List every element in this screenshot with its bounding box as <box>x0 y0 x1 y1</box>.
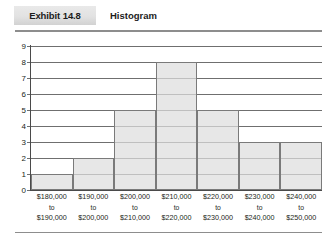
exhibit-number-tab: Exhibit 14.8 <box>14 6 96 25</box>
bin-lower-bound: $220,000 <box>197 192 239 203</box>
exhibit-number-label: Exhibit 14.8 <box>29 10 81 21</box>
x-axis-labels: $180,000to$190,000$190,000to$200,000$200… <box>31 192 322 234</box>
bin-upper-bound: $240,000 <box>239 213 281 224</box>
y-axis-tick-label: 5 <box>0 106 26 115</box>
header-divider <box>15 30 322 32</box>
histogram-bar <box>156 62 198 190</box>
bin-lower-bound: $180,000 <box>31 192 73 203</box>
plot-area <box>31 46 322 190</box>
bin-upper-bound: $230,000 <box>197 213 239 224</box>
bin-upper-bound: $190,000 <box>31 213 73 224</box>
bin-range-connector: to <box>197 203 239 214</box>
y-axis-tick-label: 3 <box>0 138 26 147</box>
y-axis-tick-label: 2 <box>0 154 26 163</box>
y-axis-tick-label: 4 <box>0 122 26 131</box>
bin-upper-bound: $250,000 <box>280 213 322 224</box>
bin-range-connector: to <box>280 203 322 214</box>
x-axis-bin-label: $240,000to$250,000 <box>280 192 322 224</box>
histogram-chart: 0123456789 $180,000to$190,000$190,000to$… <box>0 33 336 239</box>
histogram-bar <box>239 142 281 190</box>
y-axis-tick-label: 9 <box>0 42 26 51</box>
x-axis-bin-label: $210,000to$220,000 <box>156 192 198 224</box>
bin-upper-bound: $200,000 <box>73 213 115 224</box>
histogram-bar <box>73 158 115 190</box>
exhibit-header: Exhibit 14.8 Histogram <box>0 0 336 33</box>
x-axis-bin-label: $220,000to$230,000 <box>197 192 239 224</box>
histogram-bar <box>114 110 156 190</box>
bin-upper-bound: $220,000 <box>156 213 198 224</box>
exhibit-title: Histogram <box>110 6 157 25</box>
y-axis-tick-label: 0 <box>0 186 26 195</box>
bin-lower-bound: $200,000 <box>114 192 156 203</box>
y-axis-line <box>30 45 31 191</box>
bin-range-connector: to <box>73 203 115 214</box>
y-axis-tick-label: 1 <box>0 170 26 179</box>
bin-lower-bound: $210,000 <box>156 192 198 203</box>
x-axis-bin-label: $230,000to$240,000 <box>239 192 281 224</box>
bar-series <box>31 46 322 190</box>
footer-divider <box>15 232 322 233</box>
histogram-bar <box>31 174 73 190</box>
bin-lower-bound: $240,000 <box>280 192 322 203</box>
y-axis-tick-label: 6 <box>0 90 26 99</box>
histogram-bar <box>197 110 239 190</box>
bin-lower-bound: $230,000 <box>239 192 281 203</box>
bin-range-connector: to <box>114 203 156 214</box>
histogram-bar <box>280 142 322 190</box>
y-axis-tick-label: 7 <box>0 74 26 83</box>
x-axis-bin-label: $190,000to$200,000 <box>73 192 115 224</box>
bin-lower-bound: $190,000 <box>73 192 115 203</box>
bin-range-connector: to <box>239 203 281 214</box>
y-axis-tick-label: 8 <box>0 58 26 67</box>
x-axis-bin-label: $180,000to$190,000 <box>31 192 73 224</box>
x-axis-bin-label: $200,000to$210,000 <box>114 192 156 224</box>
bin-range-connector: to <box>31 203 73 214</box>
bin-upper-bound: $210,000 <box>114 213 156 224</box>
bin-range-connector: to <box>156 203 198 214</box>
